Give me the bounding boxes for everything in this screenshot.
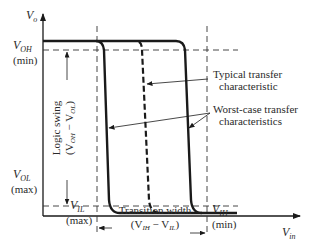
vih-qualifier: (min)	[212, 218, 237, 231]
vol-label: VOL	[13, 167, 31, 183]
x-axis-label: Vin	[282, 225, 296, 241]
typical-curve	[130, 41, 160, 213]
vil-qualifier: (max)	[66, 214, 93, 227]
worst-case-label-line2: characteristics	[219, 115, 282, 127]
voh-qualifier: (min)	[13, 54, 38, 67]
transition-width-label: Transition width	[119, 204, 192, 216]
logic-swing-label: Logic swing (VOH − VOL)	[50, 100, 77, 155]
y-axis-label: Vo	[26, 8, 37, 24]
worst-case-label: Worst-case transfer	[213, 103, 298, 115]
typical-label: Typical transfer	[213, 68, 283, 80]
vil-label: VIL	[70, 198, 85, 214]
svg-text:(VOH − VOL): (VOH − VOL)	[63, 101, 77, 155]
transition-width-formula: (VIH − VIL)	[131, 218, 180, 232]
vih-label: VIH	[212, 202, 229, 218]
svg-text:Logic swing: Logic swing	[50, 100, 62, 155]
transfer-characteristic-diagram: Vo Vin VOH (min) VOL (max) VIL (max) VIH…	[0, 0, 314, 244]
voh-label: VOH	[13, 38, 33, 54]
worst-case-leader-left	[109, 113, 210, 128]
vol-qualifier: (max)	[11, 183, 38, 196]
typical-leader-line	[147, 79, 208, 84]
typical-label-line2: characteristic	[219, 80, 278, 92]
